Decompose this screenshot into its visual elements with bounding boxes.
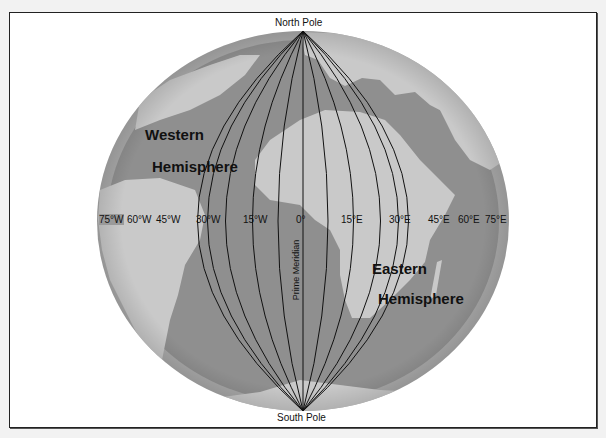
meridian-label-60w: 60°W	[127, 214, 152, 225]
eastern-hemisphere-label: Hemisphere	[378, 290, 464, 307]
western-label: Western	[145, 126, 204, 143]
eastern-label: Eastern	[372, 260, 427, 277]
western-hemisphere-label: Hemisphere	[152, 158, 238, 175]
meridian-label-15w: 15°W	[243, 214, 268, 225]
meridian-label-45w: 45°W	[156, 214, 181, 225]
meridian-label-30w: 30°W	[196, 214, 221, 225]
meridian-label-75e: 75°E	[485, 214, 507, 225]
meridian-label-30e: 30°E	[389, 214, 411, 225]
meridian-label-0: 0°	[296, 214, 306, 225]
prime-meridian-label: Prime Meridian	[291, 240, 301, 301]
north-pole-label: North Pole	[275, 17, 322, 28]
south-pole-label: South Pole	[277, 412, 326, 423]
meridian-label-60e: 60°E	[458, 214, 480, 225]
meridian-label-15e: 15°E	[341, 214, 363, 225]
meridian-label-45e: 45°E	[428, 214, 450, 225]
meridian-label-75w: 75°W	[99, 214, 124, 225]
